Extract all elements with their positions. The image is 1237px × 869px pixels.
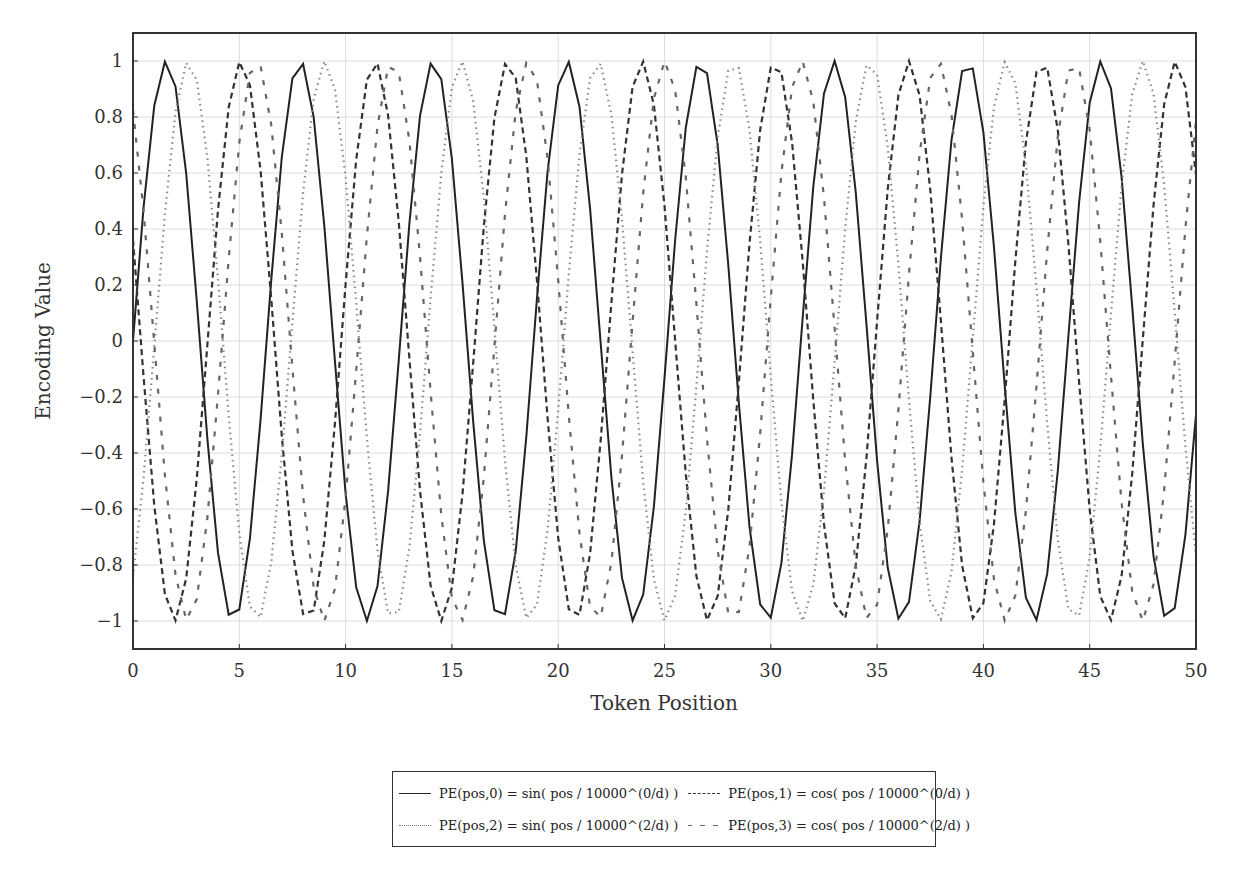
x-axis-label: Token Position: [590, 691, 738, 715]
legend-label: PE(pos,1) = cos( pos / 10000^(0/d) ): [728, 786, 970, 801]
legend-label: PE(pos,3) = cos( pos / 10000^(2/d) ): [728, 818, 970, 833]
svg-text:10: 10: [334, 660, 357, 681]
svg-text:−0.4: −0.4: [79, 442, 123, 463]
legend-item-pe3: PE(pos,3) = cos( pos / 10000^(2/d) ): [688, 818, 970, 833]
legend-item-pe2: PE(pos,2) = sin( pos / 10000^(2/d) ): [399, 818, 678, 833]
loose-dashed-line-icon: [688, 825, 720, 826]
svg-text:0.4: 0.4: [94, 218, 123, 239]
svg-text:45: 45: [1078, 660, 1101, 681]
legend-row-1: PE(pos,0) = sin( pos / 10000^(0/d) ) PE(…: [399, 778, 980, 808]
solid-line-icon: [399, 793, 431, 794]
svg-text:15: 15: [440, 660, 463, 681]
legend-row-2: PE(pos,2) = sin( pos / 10000^(2/d) ) PE(…: [399, 810, 980, 840]
svg-text:0: 0: [127, 660, 138, 681]
svg-text:1: 1: [112, 50, 123, 71]
svg-text:−0.8: −0.8: [79, 554, 123, 575]
legend: PE(pos,0) = sin( pos / 10000^(0/d) ) PE(…: [392, 771, 936, 847]
grid-lines: [133, 33, 1196, 649]
y-axis-label: Encoding Value: [31, 262, 55, 420]
y-axis-ticks: −1−0.8−0.6−0.4−0.200.20.40.60.81: [79, 50, 138, 631]
svg-text:40: 40: [972, 660, 995, 681]
legend-label: PE(pos,0) = sin( pos / 10000^(0/d) ): [439, 786, 678, 801]
svg-text:50: 50: [1185, 660, 1208, 681]
svg-text:20: 20: [547, 660, 570, 681]
svg-text:0.6: 0.6: [94, 162, 123, 183]
dotted-line-icon: [399, 825, 431, 826]
legend-item-pe1: PE(pos,1) = cos( pos / 10000^(0/d) ): [688, 786, 970, 801]
svg-text:0: 0: [112, 330, 123, 351]
svg-text:35: 35: [866, 660, 889, 681]
svg-text:−0.6: −0.6: [79, 498, 123, 519]
svg-text:25: 25: [653, 660, 676, 681]
svg-text:−1: −1: [96, 610, 123, 631]
legend-item-pe0: PE(pos,0) = sin( pos / 10000^(0/d) ): [399, 786, 678, 801]
dashed-line-icon: [688, 793, 720, 794]
legend-label: PE(pos,2) = sin( pos / 10000^(2/d) ): [439, 818, 678, 833]
line-chart: 05101520253035404550 −1−0.8−0.6−0.4−0.20…: [0, 0, 1237, 760]
svg-text:5: 5: [234, 660, 245, 681]
svg-text:−0.2: −0.2: [79, 386, 123, 407]
svg-text:0.2: 0.2: [94, 274, 123, 295]
svg-text:30: 30: [759, 660, 782, 681]
svg-text:0.8: 0.8: [94, 106, 123, 127]
